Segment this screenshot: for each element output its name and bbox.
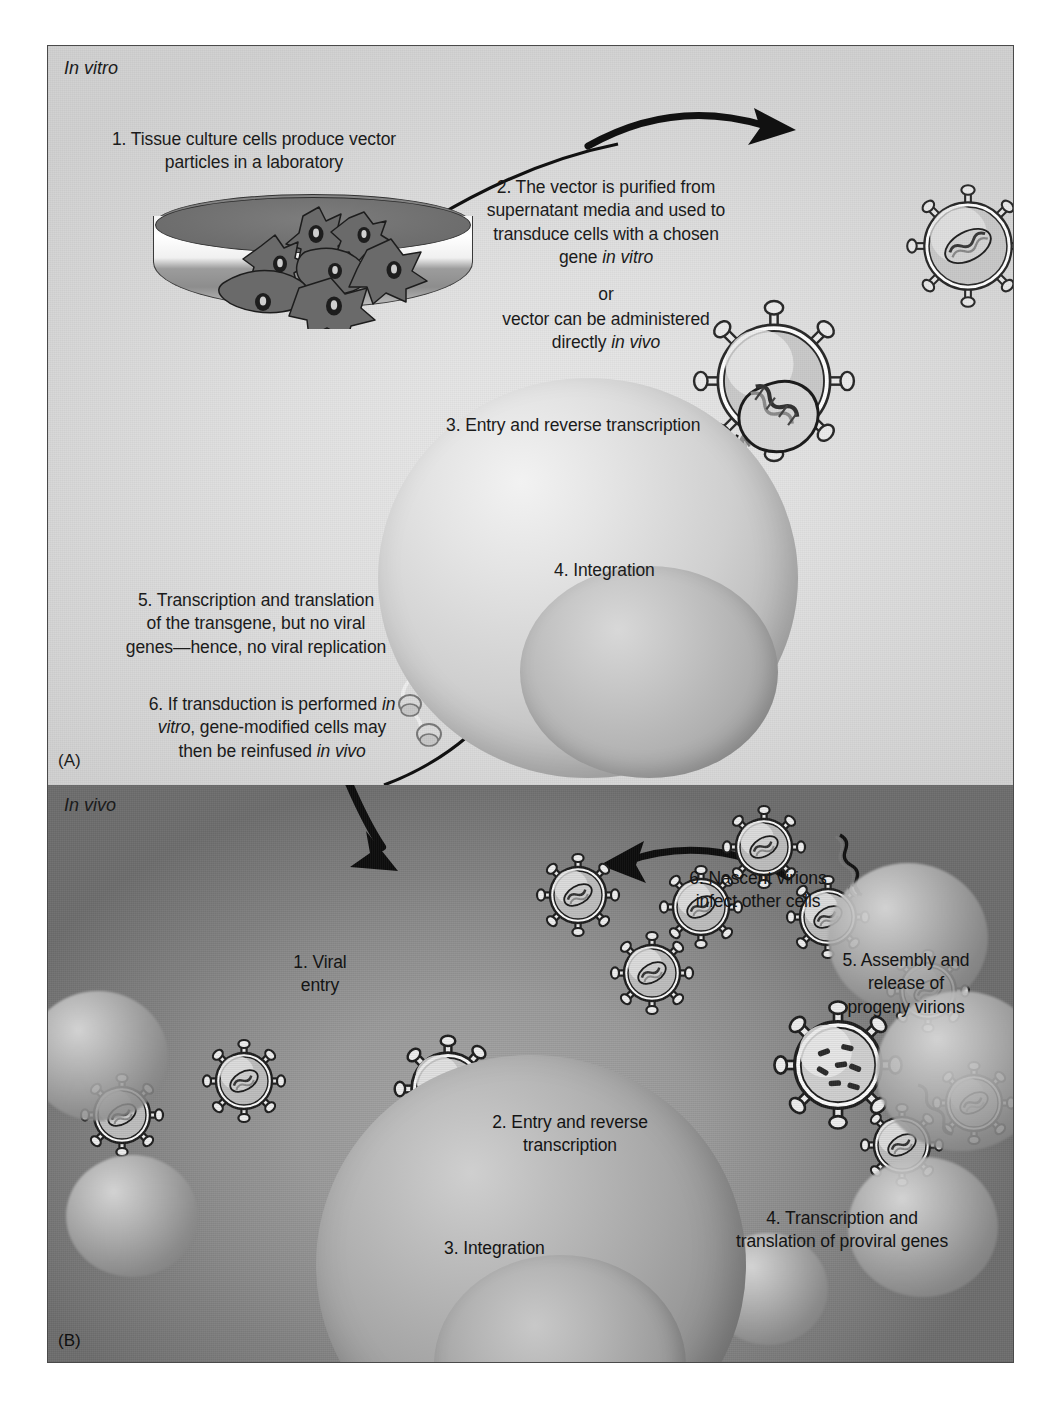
panel-a-environment-label: In vitro [64, 58, 118, 79]
panel-a-step-5-text: 5. Transcription and translation of the … [56, 589, 456, 659]
panel-a-or-text: or [446, 283, 766, 306]
step-2-line-1: 2. Entry and reverse [450, 1111, 690, 1134]
step-2-line-3: transduce cells with a chosen [446, 223, 766, 246]
step-4-line-2: translation of proviral genes [682, 1230, 1002, 1253]
step-2b-line-1: vector can be administered [446, 308, 766, 331]
step-5-line-3: progeny virions [796, 996, 1013, 1019]
step-6-line-2: infect other cells [628, 890, 888, 913]
panel-a-step-2-text: 2. The vector is purified from supernata… [446, 176, 766, 269]
panel-b-in-vivo: In vivo [48, 785, 1013, 1362]
step-1-line-1: 1. Tissue culture cells produce vector [70, 128, 438, 151]
panel-b-step-3-text: 3. Integration [444, 1237, 664, 1260]
virion-particle [907, 185, 1013, 307]
figure-frame: In vitro [47, 45, 1014, 1363]
virion-particle [537, 854, 619, 936]
step-2-line-4: gene in vitro [446, 246, 766, 269]
cell-nucleus [520, 566, 778, 778]
step-6-line-1: 6. If transduction is performed in [86, 693, 458, 716]
step-4-line: 4. Integration [554, 559, 774, 582]
step-6-line-2: vitro, gene-modified cells may [86, 716, 458, 739]
step-6-line-3: then be reinfused in vivo [86, 740, 458, 763]
panel-a-step-2b-text: vector can be administered directly in v… [446, 308, 766, 355]
panel-a-in-vitro: In vitro [48, 46, 1013, 785]
panel-a-label: (A) [58, 751, 81, 771]
panel-b-step-4-text: 4. Transcription and translation of prov… [682, 1207, 1002, 1254]
panel-b-step-6-text: 6. Nascent virions infect other cells [628, 867, 888, 914]
adherent-cell-cluster [153, 194, 473, 329]
step-1-line-1: 1. Viral [260, 951, 380, 974]
step-5-line-1: 5. Transcription and translation [56, 589, 456, 612]
panel-a-step-6-text: 6. If transduction is performed in vitro… [86, 693, 458, 763]
step-2-line-2: supernatant media and used to [446, 199, 766, 222]
virion-particle [203, 1040, 285, 1122]
figure-root: In vitro [0, 0, 1051, 1415]
virion-particle [611, 932, 693, 1014]
background-cell [66, 1155, 198, 1277]
panel-b-step-1-text: 1. Viral entry [260, 951, 380, 998]
step-3-line: 3. Integration [444, 1237, 664, 1260]
step-2-line-1: 2. The vector is purified from [446, 176, 766, 199]
panel-b-step-5-text: 5. Assembly and release of progeny virio… [796, 949, 1013, 1019]
step-2-line-2: transcription [450, 1134, 690, 1157]
step-5-line-2: of the transgene, but no viral [56, 612, 456, 635]
panel-a-step-4-text: 4. Integration [554, 559, 774, 582]
step-5-line-1: 5. Assembly and [796, 949, 1013, 972]
step-1-line-2: entry [260, 974, 380, 997]
step-3-line: 3. Entry and reverse transcription [446, 414, 876, 437]
step-5-line-3: genes—hence, no viral replication [56, 636, 456, 659]
panel-a-step-1-text: 1. Tissue culture cells produce vector p… [70, 128, 438, 175]
step-2b-line-2: directly in vivo [446, 331, 766, 354]
panel-b-label: (B) [58, 1331, 81, 1351]
step-4-line-1: 4. Transcription and [682, 1207, 1002, 1230]
panel-b-environment-label: In vivo [64, 795, 116, 816]
step-1-line-2: particles in a laboratory [70, 151, 438, 174]
or-label: or [446, 283, 766, 306]
petri-dish [153, 194, 473, 329]
step-6-line-1: 6. Nascent virions [628, 867, 888, 890]
panel-b-step-2-text: 2. Entry and reverse transcription [450, 1111, 690, 1158]
step-5-line-2: release of [796, 972, 1013, 995]
panel-a-step-3-text: 3. Entry and reverse transcription [446, 414, 876, 437]
